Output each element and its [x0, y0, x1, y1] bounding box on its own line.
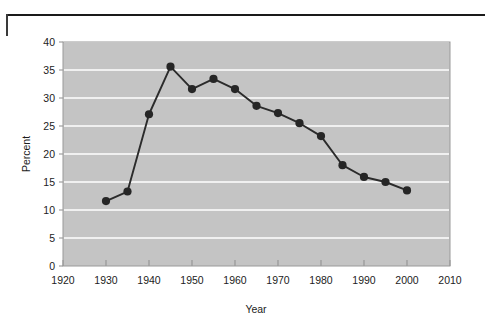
- x-tick-label-1960: 1960: [223, 274, 247, 286]
- y-tick-marks-group: [59, 42, 63, 266]
- data-point-1995: [381, 178, 389, 186]
- y-tick-label-35: 35: [43, 64, 55, 76]
- data-point-1955: [209, 75, 217, 83]
- x-tick-label-1970: 1970: [266, 274, 290, 286]
- y-axis-tick-labels: 0510152025303540: [43, 36, 55, 272]
- data-point-1935: [123, 187, 131, 195]
- x-axis-title: Year: [245, 303, 267, 315]
- y-tick-label-10: 10: [43, 204, 55, 216]
- data-point-1960: [231, 85, 239, 93]
- data-point-1970: [274, 109, 282, 117]
- x-tick-label-2010: 2010: [438, 274, 462, 286]
- data-point-1940: [145, 110, 153, 118]
- line-chart: 1920193019401950196019701980199020002010…: [0, 0, 491, 327]
- y-tick-label-15: 15: [43, 176, 55, 188]
- x-tick-label-1950: 1950: [180, 274, 204, 286]
- x-axis-tick-labels: 1920193019401950196019701980199020002010: [51, 274, 462, 286]
- y-tick-label-40: 40: [43, 36, 55, 48]
- x-tick-label-2000: 2000: [395, 274, 419, 286]
- y-axis-title: Percent: [20, 136, 32, 172]
- data-point-1985: [338, 161, 346, 169]
- data-point-1980: [317, 132, 325, 140]
- data-point-1945: [166, 63, 174, 71]
- data-point-1990: [360, 173, 368, 181]
- x-tick-label-1990: 1990: [352, 274, 376, 286]
- data-point-1975: [295, 119, 303, 127]
- data-point-2000: [403, 186, 411, 194]
- x-tick-label-1940: 1940: [137, 274, 161, 286]
- data-point-1965: [252, 102, 260, 110]
- y-tick-label-30: 30: [43, 92, 55, 104]
- y-tick-label-5: 5: [49, 232, 55, 244]
- x-tick-label-1930: 1930: [94, 274, 118, 286]
- data-point-1950: [188, 85, 196, 93]
- data-point-1930: [102, 197, 110, 205]
- y-tick-label-25: 25: [43, 120, 55, 132]
- x-tick-label-1980: 1980: [309, 274, 333, 286]
- y-tick-label-0: 0: [49, 260, 55, 272]
- x-tick-label-1920: 1920: [51, 274, 75, 286]
- figure-container: 1920193019401950196019701980199020002010…: [0, 0, 491, 327]
- y-tick-label-20: 20: [43, 148, 55, 160]
